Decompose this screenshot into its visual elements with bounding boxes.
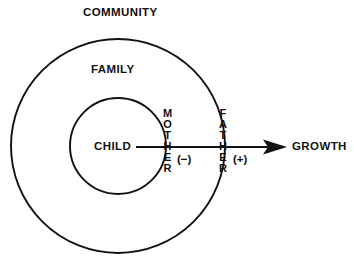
mother-label: M O T H E R <box>163 108 172 174</box>
father-label: F A T H E R <box>219 108 227 174</box>
growth-circles-diagram: COMMUNITY FAMILY CHILD GROWTH M O T H E … <box>0 0 354 263</box>
community-label: COMMUNITY <box>83 6 158 18</box>
father-sign-label: (+) <box>233 153 247 165</box>
diagram-canvas <box>0 0 354 263</box>
family-label: FAMILY <box>91 63 135 75</box>
mother-sign-label: (−) <box>177 153 191 165</box>
growth-label: GROWTH <box>292 140 347 152</box>
father-letter: R <box>219 163 227 174</box>
child-label: CHILD <box>94 140 131 152</box>
mother-letter: R <box>164 163 172 174</box>
